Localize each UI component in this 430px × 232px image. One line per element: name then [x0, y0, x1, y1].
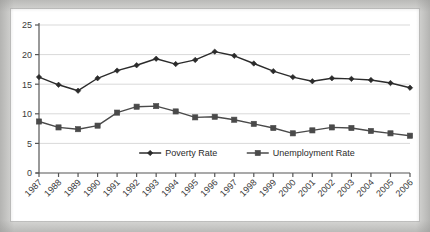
- y-tick-label: 15: [22, 80, 32, 90]
- data-point-marker-diamond: [134, 63, 139, 68]
- x-tick-label: 2006: [394, 177, 415, 198]
- chart-legend: Poverty RateUnemployment Rate: [139, 148, 355, 158]
- data-point-marker-diamond: [271, 68, 276, 73]
- data-point-marker-square: [154, 104, 159, 109]
- data-point-marker-diamond: [388, 80, 393, 85]
- series-line: [39, 106, 410, 136]
- data-point-marker-diamond: [193, 57, 198, 62]
- data-point-marker-square: [232, 117, 237, 122]
- data-point-marker-square: [271, 125, 276, 130]
- data-point-marker-square: [329, 125, 334, 130]
- data-point-marker-square: [349, 125, 354, 130]
- data-point-marker-square: [134, 104, 139, 109]
- x-tick-label: 1987: [23, 177, 44, 198]
- data-point-marker-diamond: [368, 77, 373, 82]
- chart-canvas: 0510152025198719881989199019911992199319…: [11, 9, 419, 221]
- data-point-marker-diamond: [407, 85, 412, 90]
- data-point-marker-square: [75, 127, 80, 132]
- y-tick-label: 20: [22, 50, 32, 60]
- x-tick-label: 1993: [140, 177, 161, 198]
- data-point-marker-diamond: [212, 49, 217, 54]
- x-tick-label: 1998: [237, 177, 258, 198]
- data-point-marker-square: [407, 133, 412, 138]
- legend-label: Unemployment Rate: [273, 148, 355, 158]
- data-point-marker-diamond: [251, 61, 256, 66]
- x-tick-label: 2001: [296, 177, 317, 198]
- data-point-marker-diamond: [232, 53, 237, 58]
- data-point-marker-diamond: [147, 150, 152, 155]
- data-point-marker-diamond: [349, 76, 354, 81]
- data-point-marker-diamond: [114, 68, 119, 73]
- data-point-marker-square: [115, 110, 120, 115]
- data-point-marker-square: [56, 125, 61, 130]
- data-point-marker-diamond: [329, 76, 334, 81]
- x-tick-label: 2005: [374, 177, 395, 198]
- data-point-marker-square: [193, 115, 198, 120]
- series-line: [39, 52, 410, 91]
- data-point-marker-square: [388, 131, 393, 136]
- data-point-marker-square: [310, 128, 315, 133]
- data-point-marker-square: [212, 114, 217, 119]
- x-tick-label: 1989: [62, 177, 83, 198]
- legend-label: Poverty Rate: [165, 148, 217, 158]
- x-tick-label: 1992: [120, 177, 141, 198]
- data-point-marker-square: [95, 123, 100, 128]
- x-tick-label: 1999: [257, 177, 278, 198]
- chart-figure: 0510152025198719881989199019911992199319…: [0, 0, 430, 232]
- data-point-marker-square: [368, 128, 373, 133]
- y-tick-label: 10: [22, 109, 32, 119]
- data-point-marker-diamond: [36, 74, 41, 79]
- x-tick-label: 2002: [316, 177, 337, 198]
- x-tick-label: 1991: [101, 177, 122, 198]
- data-point-marker-square: [255, 150, 260, 155]
- data-point-marker-square: [251, 121, 256, 126]
- x-tick-label: 2004: [355, 177, 376, 198]
- x-tick-label: 1990: [81, 177, 102, 198]
- data-point-marker-diamond: [56, 82, 61, 87]
- data-point-marker-square: [290, 131, 295, 136]
- x-tick-label: 1997: [218, 177, 239, 198]
- data-point-marker-diamond: [153, 56, 158, 61]
- series-unemployment-rate: [36, 104, 412, 139]
- x-tick-label: 2003: [335, 177, 356, 198]
- data-point-marker-diamond: [173, 61, 178, 66]
- y-tick-label: 5: [27, 139, 32, 149]
- x-tick-label: 1994: [159, 177, 180, 198]
- data-point-marker-square: [36, 119, 41, 124]
- x-tick-label: 1995: [179, 177, 200, 198]
- data-point-marker-diamond: [290, 74, 295, 79]
- data-point-marker-square: [173, 109, 178, 114]
- data-point-marker-diamond: [310, 79, 315, 84]
- series-poverty-rate: [36, 49, 412, 93]
- y-tick-label: 25: [22, 20, 32, 30]
- x-tick-label: 2000: [277, 177, 298, 198]
- y-tick-label: 0: [27, 168, 32, 178]
- x-tick-label: 1996: [198, 177, 219, 198]
- line-chart-plot: 0510152025198719881989199019911992199319…: [11, 9, 419, 221]
- x-tick-label: 1988: [42, 177, 63, 198]
